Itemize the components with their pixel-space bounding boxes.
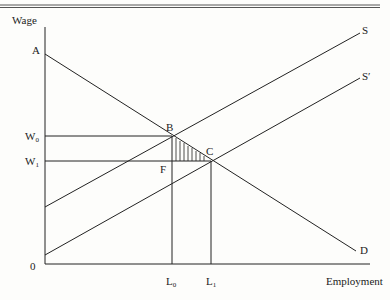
curve-s-label: S [362, 25, 368, 36]
point-c-label: C [206, 146, 213, 157]
l1-base: L [206, 275, 213, 287]
hatched-triangle [176, 138, 204, 161]
w1-base: W [25, 155, 35, 167]
point-f-label: F [160, 164, 166, 175]
l0-base: L [166, 275, 173, 287]
l0-sub: 0 [173, 281, 177, 289]
origin-label: 0 [30, 261, 36, 272]
w0-base: W [25, 130, 35, 142]
curve-d-label: D [360, 245, 368, 256]
w1-label: W1 [25, 156, 39, 171]
w1-sub: 1 [35, 161, 39, 169]
point-a-label: A [32, 45, 40, 56]
w0-sub: 0 [35, 136, 39, 144]
supply-curve-s [45, 33, 360, 207]
w0-label: W0 [25, 131, 39, 146]
l0-label: L0 [166, 276, 176, 291]
point-b-label: B [166, 122, 173, 133]
curve-s-prime-label: S′ [362, 71, 371, 82]
l1-label: L1 [206, 276, 216, 291]
l1-sub: 1 [213, 281, 217, 289]
supply-curve-s-prime [45, 78, 360, 255]
x-axis-label: Employment [326, 276, 383, 287]
demand-curve [45, 54, 356, 251]
y-axis-label: Wage [12, 15, 37, 26]
chart-canvas [0, 0, 390, 300]
